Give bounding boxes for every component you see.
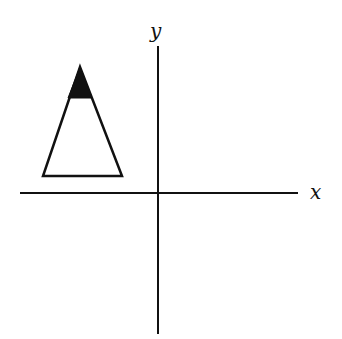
triangle [43, 67, 122, 176]
diagram-canvas: x y [0, 0, 342, 339]
x-axis-label: x [310, 180, 321, 204]
shaded-tip [68, 67, 92, 98]
y-axis-label: y [149, 19, 162, 43]
